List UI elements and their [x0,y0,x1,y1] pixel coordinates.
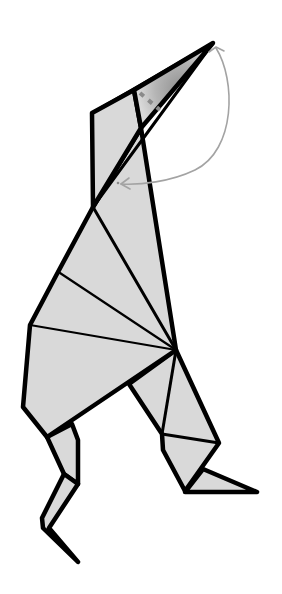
left-shin-and-foot [42,474,78,562]
origami-diagram: origami bird (standing figure) folding s… [0,0,282,594]
left-leg [42,424,78,562]
left-toe-crease [49,528,78,562]
arrow-target-dot [117,182,120,185]
head-beak [134,43,213,128]
origami-bird-figure [0,0,282,594]
